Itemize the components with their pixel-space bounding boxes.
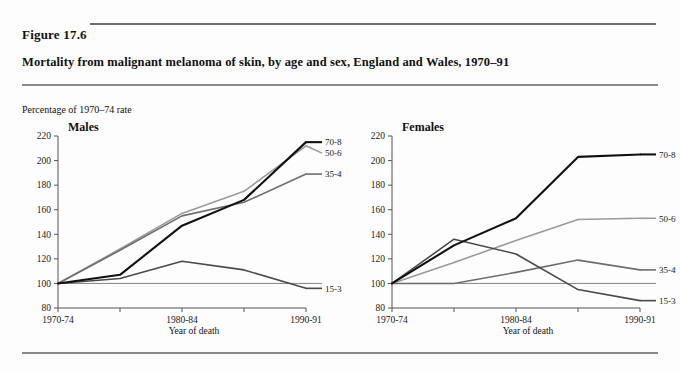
y-axis-tick-label: 80 (376, 303, 386, 313)
x-axis-tick-label: 1970-74 (42, 315, 74, 325)
y-axis-tick-label: 80 (42, 303, 52, 313)
y-axis-tick-label: 220 (371, 131, 386, 141)
series-label-50-69: 50-69 (659, 214, 676, 224)
header-rule-top (90, 23, 656, 25)
y-axis-tick-label: 100 (371, 279, 386, 289)
series-line-35-49 (392, 260, 640, 283)
y-axis-tick-label: 200 (37, 156, 52, 166)
series-leader-50-69 (306, 146, 322, 153)
x-axis-tick-label: 1980-84 (166, 315, 198, 325)
y-axis-tick-label: 140 (371, 230, 386, 240)
x-axis-label-females: Year of death (356, 326, 676, 336)
series-line-50-69 (392, 218, 640, 283)
series-line-15-34 (58, 261, 306, 288)
line-chart-males: 801001201401601802002201970-741980-84199… (22, 120, 342, 330)
series-label-70-84: 70-84 (325, 137, 342, 147)
x-axis-tick-label: 1990-91 (290, 315, 322, 325)
header-rule-middle (22, 84, 658, 86)
y-axis-tick-label: 220 (37, 131, 52, 141)
y-axis-tick-label: 200 (371, 156, 386, 166)
chart-panel-females: Females 801001201401601802002201970-7419… (356, 120, 676, 345)
y-axis-tick-label: 180 (371, 180, 386, 190)
y-axis-tick-label: 120 (37, 254, 52, 264)
line-chart-females: 801001201401601802002201970-741980-84199… (356, 120, 676, 330)
series-label-70-84: 70-84 (659, 150, 676, 160)
series-line-35-49 (58, 174, 306, 283)
series-label-35-49: 35-49 (325, 169, 342, 179)
x-axis-tick-label: 1980-84 (500, 315, 532, 325)
footer-rule (22, 352, 658, 354)
series-label-35-49: 35-49 (659, 265, 676, 275)
y-axis-tick-label: 160 (37, 205, 52, 215)
y-axis-tick-label: 160 (371, 205, 386, 215)
chart-panel-males: Males 801001201401601802002201970-741980… (22, 120, 342, 345)
y-axis-units-note: Percentage of 1970–74 rate (22, 104, 132, 115)
x-axis-tick-label: 1990-91 (624, 315, 656, 325)
figure-title: Mortality from malignant melanoma of ski… (22, 55, 509, 70)
y-axis-tick-label: 180 (37, 180, 52, 190)
series-label-50-69: 50-69 (325, 148, 342, 158)
figure-number: Figure 17.6 (22, 27, 87, 43)
series-label-15-34: 15-34 (325, 284, 342, 294)
y-axis-tick-label: 140 (37, 230, 52, 240)
x-axis-label-males: Year of death (22, 326, 342, 336)
y-axis-tick-label: 100 (37, 279, 52, 289)
figure-container: Figure 17.6 Mortality from malignant mel… (0, 0, 680, 371)
series-line-15-34 (392, 239, 640, 300)
y-axis-tick-label: 120 (371, 254, 386, 264)
x-axis-tick-label: 1970-74 (376, 315, 408, 325)
series-label-15-34: 15-34 (659, 296, 676, 306)
